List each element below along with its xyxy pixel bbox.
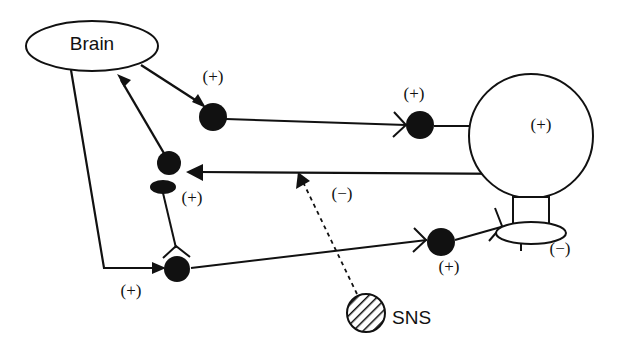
- brain-label: Brain: [70, 33, 114, 54]
- sns-label: SNS: [392, 307, 431, 328]
- node-n4: [164, 256, 190, 282]
- figure-canvas: Brain SNS (+) (+) (+) (+) (−) (+) (+) (−…: [0, 0, 617, 352]
- edge-brain-to-n1: [141, 65, 206, 108]
- circuit-diagram: Brain SNS (+) (+) (+) (+) (−) (+) (+) (−…: [0, 0, 617, 352]
- edge-n1-to-n5: [226, 112, 406, 137]
- plus-near-n5-label: (+): [404, 84, 425, 103]
- edge-n6-to-bulb: [455, 208, 502, 241]
- node-n1: [199, 103, 227, 131]
- node-n6: [427, 228, 455, 256]
- edge-brain-to-n4: [71, 70, 166, 274]
- node-n3: [150, 180, 176, 194]
- plus-near-n4-label: (+): [121, 281, 142, 300]
- minus-near-bulb-label: (−): [550, 239, 571, 258]
- edge-n2-to-brain: [117, 74, 165, 155]
- sns-circle: [347, 294, 385, 332]
- organ-circle: [469, 74, 593, 198]
- minus-dashed-label: (−): [332, 184, 353, 203]
- plus-near-n6-label: (+): [439, 257, 460, 276]
- plus-inside-organ-label: (+): [531, 115, 552, 134]
- edge-organ-to-n2: [186, 160, 520, 188]
- node-n2: [157, 151, 181, 175]
- plus-near-n1-label: (+): [203, 67, 224, 86]
- plus-near-n3-label: (+): [182, 188, 203, 207]
- node-n5: [406, 111, 434, 139]
- edge-n4-to-n6: [191, 228, 427, 268]
